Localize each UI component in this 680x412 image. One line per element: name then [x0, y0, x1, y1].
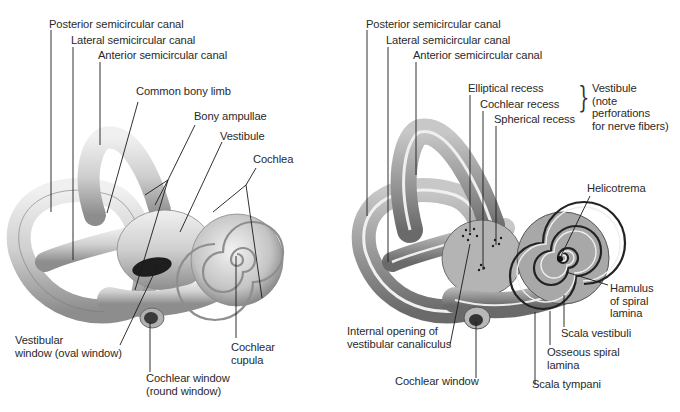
label-common-bony-limb: Common bony limb	[136, 85, 231, 98]
label-cochlear-cupula: Cochlear cupula	[231, 341, 275, 366]
label-hamulus-of-spiral-lamina: Hamulus of spiral lamina	[610, 282, 653, 320]
label-cochlear-window-round: Cochlear window (round window)	[146, 372, 230, 397]
label-spherical-recess: Spherical recess	[494, 113, 575, 126]
right-labyrinth	[364, 131, 625, 329]
vestibule-brace: }	[578, 82, 589, 112]
label-helicotrema: Helicotrema	[587, 182, 646, 195]
label-vestibule-note: Vestibule (note perforations for nerve f…	[592, 82, 669, 132]
label-lateral-semicircular-canal: Lateral semicircular canal	[71, 34, 195, 47]
label-cochlear-recess: Cochlear recess	[480, 98, 559, 111]
label-scala-tympani: Scala tympani	[532, 378, 601, 391]
label-posterior-semicircular-canal-right: Posterior semicircular canal	[366, 18, 501, 31]
label-elliptical-recess: Elliptical recess	[468, 82, 543, 95]
label-bony-ampullae: Bony ampullae	[194, 110, 267, 123]
label-internal-opening-vestibular-canaliculus: Internal opening of vestibular canalicul…	[347, 325, 451, 350]
label-scala-vestibuli: Scala vestibuli	[561, 327, 631, 340]
label-lateral-semicircular-canal-right: Lateral semicircular canal	[386, 34, 510, 47]
inner-ear-figure: Posterior semicircular canal Lateral sem…	[0, 0, 680, 412]
label-anterior-semicircular-canal-right: Anterior semicircular canal	[413, 49, 542, 62]
label-cochlea: Cochlea	[253, 153, 293, 166]
left-labyrinth	[19, 137, 283, 328]
label-vestibule: Vestibule	[220, 130, 265, 143]
label-anterior-semicircular-canal: Anterior semicircular canal	[98, 49, 227, 62]
label-posterior-semicircular-canal: Posterior semicircular canal	[49, 18, 184, 31]
label-cochlear-window: Cochlear window	[395, 375, 479, 388]
label-osseous-spiral-lamina: Osseous spiral lamina	[547, 346, 620, 371]
label-vestibular-window: Vestibular window (oval window)	[15, 334, 122, 359]
